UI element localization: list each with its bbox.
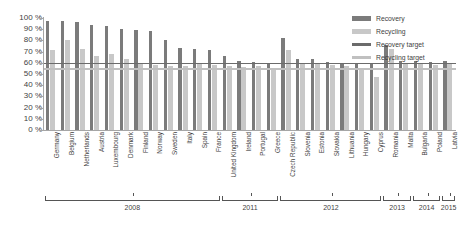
x-axis-tick-label: Austria (99, 132, 105, 184)
bar-group (250, 18, 265, 130)
legend-bar-swatch (352, 29, 371, 34)
bar-recycling (300, 63, 305, 130)
bar-group (176, 18, 191, 130)
bar-recovery (296, 59, 299, 130)
x-axis-tick-label: Hungary (363, 132, 369, 184)
y-axis-tick-label: 50 % (2, 70, 42, 78)
legend-item-recycling-target: Recycling target (352, 52, 458, 63)
bar-recovery (340, 63, 343, 130)
y-axis-tick-label: 60 % (2, 59, 42, 67)
x-axis-tick-label: Belgium (69, 132, 75, 184)
x-axis-tick-label: Portugal (260, 132, 266, 184)
x-axis-tick-label: Bulgaria (422, 132, 428, 184)
year-bracket (383, 196, 410, 201)
bar-recovery (326, 62, 329, 130)
year-bracket-label: 2008 (112, 204, 152, 212)
year-bracket (280, 196, 381, 201)
year-bracket (222, 196, 279, 201)
x-axis-tick-label: Italy (187, 132, 193, 184)
y-axis-tick-mark (40, 40, 43, 41)
bar-recovery (193, 49, 196, 130)
bar-recovery (149, 31, 152, 130)
y-axis-tick-label: 80 % (2, 36, 42, 44)
y-axis-tick-label: 10 % (2, 115, 42, 123)
bar-group (265, 18, 280, 130)
x-axis-tick-label: Cyprus (378, 132, 384, 184)
bar-group (294, 18, 309, 130)
bar-recovery (237, 61, 240, 130)
bar-recycling (153, 65, 158, 130)
year-bracket-tick (428, 193, 429, 196)
bar-group (132, 18, 147, 130)
y-axis-tick-mark (40, 108, 43, 109)
bar-recycling (315, 63, 320, 130)
year-bracket-label: 2011 (230, 204, 270, 212)
year-bracket-tick (450, 193, 451, 196)
bar-group (221, 18, 236, 130)
legend-bar-swatch (352, 16, 371, 21)
y-axis-tick-mark (40, 119, 43, 120)
x-axis-tick-label: Finland (143, 132, 149, 184)
year-bracket (413, 196, 440, 201)
bar-recycling (256, 66, 261, 130)
bar-recycling (94, 56, 99, 130)
y-axis-tick-label: 90 % (2, 25, 42, 33)
bar-recovery (61, 21, 64, 130)
legend-label: Recycling target (376, 54, 425, 61)
x-axis-tick-label: United Kingdom (231, 132, 237, 184)
x-axis-tick-label: Luxembourg (113, 132, 119, 184)
x-axis-tick-label: Romania (393, 132, 399, 184)
bar-recycling (183, 66, 188, 130)
year-bracket-label: 2015 (429, 204, 463, 212)
y-axis-tick-mark (40, 130, 43, 131)
x-axis-tick-label: Poland (437, 132, 443, 184)
x-axis-tick-label: Germany (54, 132, 60, 184)
year-bracket (442, 196, 455, 201)
packaging-recovery-recycling-chart: 0 %10 %20 %30 %40 %50 %60 %70 %80 %90 %1… (0, 0, 463, 245)
y-axis: 0 %10 %20 %30 %40 %50 %60 %70 %80 %90 %1… (0, 0, 42, 245)
x-axis-tick-label: Czech Republic (290, 132, 296, 184)
bar-recycling (344, 66, 349, 130)
bar-group (324, 18, 339, 130)
bar-group (103, 18, 118, 130)
bar-recycling (271, 68, 276, 130)
bar-recovery (281, 38, 284, 130)
legend-item-recycling: Recycling (352, 26, 458, 37)
y-axis-tick-mark (40, 29, 43, 30)
bar-group (309, 18, 324, 130)
legend-line-swatch (352, 43, 371, 45)
y-axis-tick-label: 70 % (2, 48, 42, 56)
bar-recovery (134, 30, 137, 130)
bar-recycling (330, 65, 335, 130)
y-axis-tick-label: 20 % (2, 104, 42, 112)
x-axis-tick-label: Slovakia (334, 132, 340, 184)
x-axis-tick-label: France (216, 132, 222, 184)
y-axis-tick-label: 40 % (2, 81, 42, 89)
bar-recycling (109, 54, 114, 130)
year-group-brackets: 200820112012201320142015 (44, 196, 456, 236)
bar-group (88, 18, 103, 130)
legend-label: Recycling (376, 28, 405, 35)
y-axis-tick-mark (40, 18, 43, 19)
bar-recycling (433, 65, 438, 130)
y-axis-tick-mark (40, 63, 43, 64)
x-axis-tick-label: Norway (157, 132, 163, 184)
bar-recycling (241, 67, 246, 130)
y-axis-tick-label: 0 % (2, 126, 42, 134)
y-axis-tick-label: 100 % (2, 14, 42, 22)
bar-recovery (399, 61, 402, 130)
bar-group (147, 18, 162, 130)
bar-recycling (168, 66, 173, 130)
bar-recovery (370, 63, 373, 130)
bar-recovery (311, 59, 314, 130)
x-axis-category-labels: GermanyBelgiumNetherlandsAustriaLuxembou… (44, 132, 456, 184)
bar-recycling (227, 66, 232, 130)
y-axis-tick-mark (40, 85, 43, 86)
bar-group (279, 18, 294, 130)
y-axis-tick-label: 30 % (2, 92, 42, 100)
bar-recycling (359, 68, 364, 130)
year-bracket-tick (133, 193, 134, 196)
bar-group (118, 18, 133, 130)
bar-recovery (90, 25, 93, 130)
bar-recycling (418, 63, 423, 130)
